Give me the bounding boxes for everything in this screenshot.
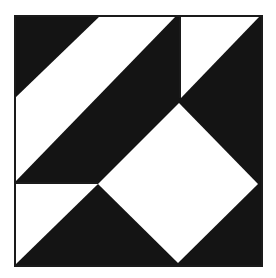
shape-group — [15, 16, 262, 266]
quilt-block-figure — [0, 0, 276, 278]
